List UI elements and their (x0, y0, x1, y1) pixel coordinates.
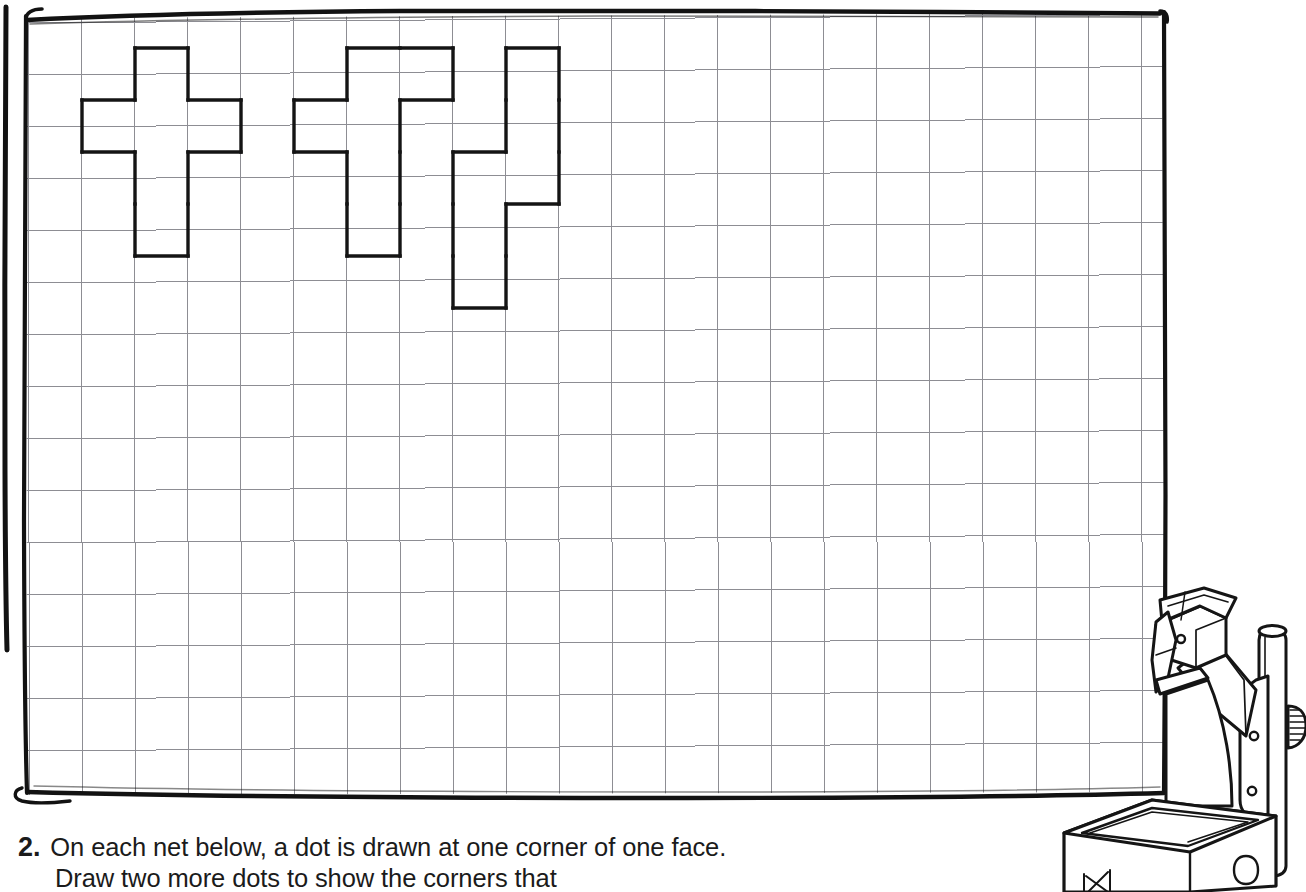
question-line-1-text: On each net below, a dot is drawn at one… (50, 832, 726, 863)
board-stand-frame (5, 7, 7, 650)
question-line-1: 2. On each net below, a dot is drawn at … (18, 832, 1048, 863)
whiteboard-area (0, 0, 1306, 892)
worksheet-page: 2. On each net below, a dot is drawn at … (0, 0, 1306, 892)
question-block: 2. On each net below, a dot is drawn at … (18, 832, 1048, 892)
question-line-2: Draw two more dots to show the corners t… (18, 863, 1048, 892)
whiteboard-drawing (0, 0, 1306, 892)
question-line-2-text: Draw two more dots to show the corners t… (55, 863, 557, 892)
board-face (26, 13, 1165, 795)
question-number: 2. (18, 832, 40, 863)
